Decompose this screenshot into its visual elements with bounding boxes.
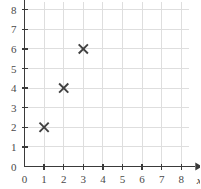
x-axis-tick-labels: 012345678 [22,173,185,185]
y-axis-tick-label: 1 [11,141,17,153]
x-axis-tick-label: 3 [81,173,87,185]
x-axis-tick-label: 0 [22,173,28,185]
y-axis-tick-label: 5 [11,63,17,75]
y-axis-tick-label: 2 [11,121,17,133]
x-axis-tick-label: 8 [179,173,185,185]
vertical-gridlines [44,2,181,167]
y-axis-tick-label: 7 [11,23,17,35]
y-axis-tick-label: 0 [11,161,17,173]
x-axis-tick-label: 2 [61,173,67,185]
y-axis-tick-label: 4 [11,82,17,94]
axes [21,0,201,171]
scatter-plot-figure: 012345678 012345678 x y [0,0,200,189]
x-axis-tick-label: 6 [139,173,145,185]
y-axis-tick-label: 6 [11,43,17,55]
horizontal-gridlines [25,10,190,147]
y-axis-tick-labels: 012345678 [11,4,17,173]
x-axis-title: x [196,174,200,186]
x-axis-tick-label: 1 [41,173,47,185]
chart-canvas: 012345678 012345678 x y [0,0,200,189]
x-axis-tick-label: 4 [100,173,106,185]
x-axis-tick-label: 5 [120,173,126,185]
y-axis-tick-label: 8 [11,4,17,16]
y-axis-tick-label: 3 [11,102,17,114]
x-axis-arrow-icon [195,163,200,171]
x-axis-tick-label: 7 [159,173,165,185]
